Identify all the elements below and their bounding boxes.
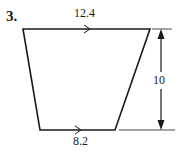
top-base-label: 12.4	[74, 6, 95, 21]
trapezoid-shape	[23, 29, 150, 130]
arrow-up-icon	[158, 29, 165, 39]
problem-number: 3.	[6, 8, 17, 25]
height-label: 10	[153, 72, 165, 89]
arrow-down-icon	[158, 120, 165, 130]
bottom-base-label: 8.2	[73, 134, 88, 149]
